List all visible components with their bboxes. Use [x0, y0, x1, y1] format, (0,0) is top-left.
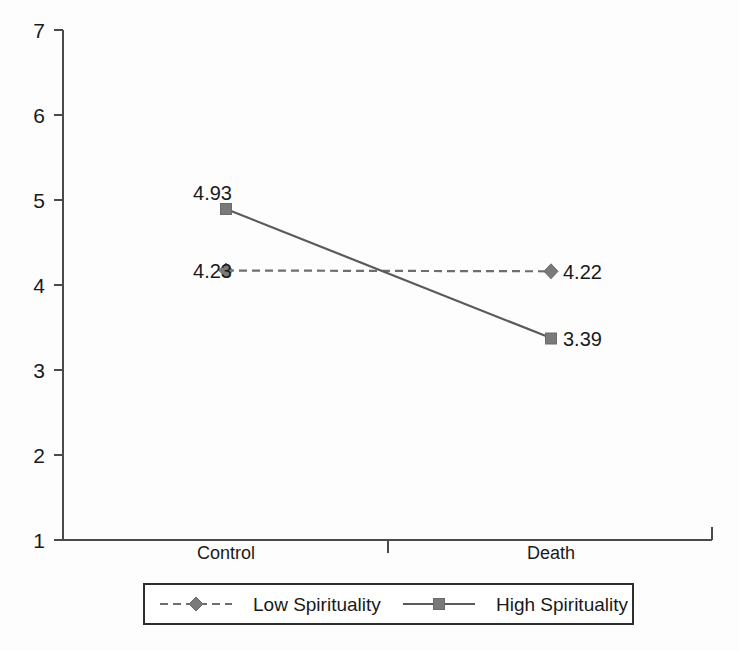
marker-high-spirituality-death	[546, 333, 557, 344]
chart-container: 7 6 5 4 3 2 1 Control Death 4.93 4.23 4.…	[0, 0, 739, 651]
y-tick-label-7: 7	[33, 19, 45, 42]
y-tick-label-6: 6	[33, 104, 45, 127]
y-tick-label-5: 5	[33, 189, 45, 212]
legend-label-high-spirituality: High Spirituality	[496, 594, 628, 615]
marker-high-spirituality-control	[221, 204, 232, 215]
y-tick-label-1: 1	[33, 529, 45, 552]
data-label-high-death: 3.39	[563, 328, 602, 350]
data-label-low-death: 4.22	[563, 261, 602, 283]
data-label-high-control: 4.93	[193, 182, 232, 204]
interaction-line-chart: 7 6 5 4 3 2 1 Control Death 4.93 4.23 4.…	[0, 0, 739, 651]
legend-label-low-spirituality: Low Spirituality	[253, 594, 381, 615]
marker-low-spirituality-death	[544, 264, 558, 279]
y-tick-label-3: 3	[33, 359, 45, 382]
x-category-label-control: Control	[197, 543, 255, 563]
series-line-high-spirituality	[226, 209, 551, 338]
data-label-low-control: 4.23	[193, 260, 232, 282]
series-line-low-spirituality	[226, 271, 551, 272]
y-tick-label-4: 4	[33, 274, 45, 297]
x-category-label-death: Death	[527, 543, 575, 563]
chart-legend: Low Spirituality High Spirituality	[144, 584, 633, 624]
legend-swatch-square-icon	[434, 599, 445, 610]
y-tick-label-2: 2	[33, 444, 45, 467]
